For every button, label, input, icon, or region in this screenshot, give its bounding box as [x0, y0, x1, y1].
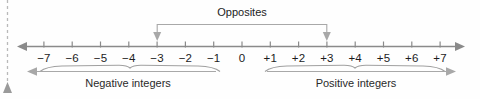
- negative-integers-brace: [40, 65, 220, 71]
- tick-label-neg1: −1: [207, 52, 221, 64]
- number-line-figure: −7−6−5−4−3−2−10+1+2+3+4+5+6+7 Opposites …: [0, 0, 480, 99]
- tick-label-pos2: +2: [292, 52, 306, 64]
- tick-label-neg6: −6: [65, 52, 79, 64]
- axis-left-arrowhead: [17, 42, 27, 51]
- opposites-left-arrowhead: [153, 32, 161, 41]
- tick-label-pos4: +4: [348, 52, 362, 64]
- dashed-margin-line: [3, 0, 12, 93]
- opposites-label: Opposites: [217, 6, 267, 18]
- opposites-bracket: [153, 25, 331, 42]
- positive-integers-brace: [265, 65, 445, 71]
- tick-label-neg7: −7: [37, 52, 51, 64]
- negative-integers-arrow: [27, 67, 216, 76]
- tick-label-neg5: −5: [94, 52, 108, 64]
- negative-integers-label: Negative integers: [85, 77, 171, 89]
- tick-label-pos5: +5: [377, 52, 391, 64]
- tick-label-neg3: −3: [150, 52, 164, 64]
- opposites-right-arrowhead: [323, 32, 331, 41]
- tick-label-pos6: +6: [405, 52, 419, 64]
- positive-integers-label: Positive integers: [316, 77, 397, 89]
- positive-integers-arrow: [267, 67, 456, 76]
- tick-label-zero0: 0: [239, 52, 246, 64]
- number-line-axis: [17, 42, 465, 51]
- tick-label-pos7: +7: [433, 52, 447, 64]
- tick-label-pos3: +3: [320, 52, 334, 64]
- tick-label-pos1: +1: [264, 52, 278, 64]
- tick-label-neg4: −4: [122, 52, 136, 64]
- axis-right-arrowhead: [455, 42, 465, 51]
- tick-label-neg2: −2: [179, 52, 193, 64]
- tick-labels: −7−6−5−4−3−2−10+1+2+3+4+5+6+7: [37, 52, 447, 64]
